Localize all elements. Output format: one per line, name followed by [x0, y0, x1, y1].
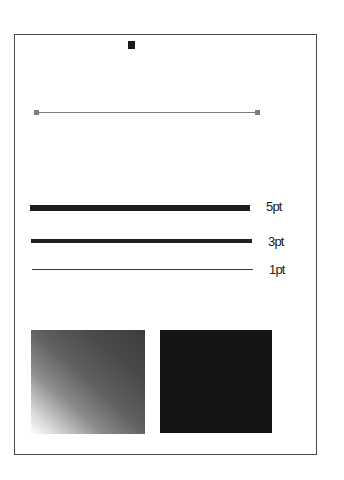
stroke-1pt-line[interactable] — [32, 269, 253, 270]
gradient-swatch[interactable] — [31, 330, 145, 434]
selected-line[interactable] — [37, 112, 257, 113]
line-start-handle[interactable] — [34, 110, 39, 115]
stroke-3pt-line[interactable] — [31, 239, 252, 243]
stroke-5pt-label: 5pt — [266, 200, 282, 213]
stroke-5pt-line[interactable] — [30, 205, 250, 211]
stroke-1pt-label: 1pt — [269, 263, 285, 276]
stroke-3pt-label: 3pt — [268, 235, 284, 248]
marker-square[interactable] — [128, 41, 135, 49]
solid-black-swatch[interactable] — [160, 330, 272, 433]
line-end-handle[interactable] — [255, 110, 260, 115]
